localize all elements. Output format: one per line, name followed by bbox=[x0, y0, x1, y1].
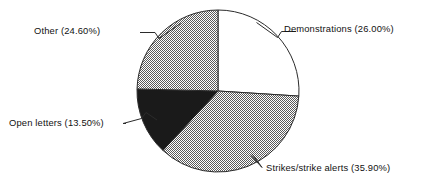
pie-label-strikes-strike-alerts: Strikes/strike alerts (35.90%) bbox=[266, 162, 390, 173]
pie-label-demonstrations: Demonstrations (26.00%) bbox=[284, 23, 394, 34]
pie-slice-other bbox=[137, 10, 218, 91]
pie-chart-figure: Demonstrations (26.00%) Other (24.60%) O… bbox=[0, 0, 443, 186]
pie-label-other: Other (24.60%) bbox=[34, 25, 100, 36]
pie-label-open-letters: Open letters (13.50%) bbox=[9, 117, 104, 128]
